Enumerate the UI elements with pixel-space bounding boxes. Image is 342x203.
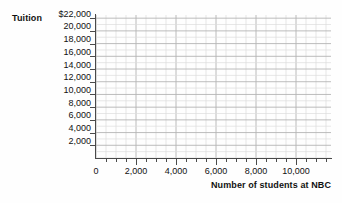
- x-axis-tick-label: 4,000: [165, 166, 188, 176]
- x-axis-minor-tick: [106, 159, 107, 162]
- plot-area: [96, 15, 331, 158]
- x-axis-tick-label: 8,000: [245, 166, 268, 176]
- y-axis-title: Tuition: [12, 13, 42, 23]
- y-axis-tick-label: 20,000: [63, 22, 91, 31]
- x-axis-minor-tick: [316, 159, 317, 162]
- x-axis-major-tick: [216, 159, 217, 165]
- y-axis-line: [95, 14, 96, 159]
- x-axis-minor-tick: [266, 159, 267, 162]
- y-axis-tick-label: 14,000: [63, 61, 91, 70]
- x-axis-tick-label: 6,000: [205, 166, 228, 176]
- y-axis-tick-label: 8,000: [68, 99, 91, 108]
- x-axis-minor-tick: [166, 159, 167, 162]
- x-axis-minor-tick: [246, 159, 247, 162]
- x-axis-minor-tick: [206, 159, 207, 162]
- x-axis-major-tick: [136, 159, 137, 165]
- grid-lines: [96, 15, 331, 158]
- y-axis-tick-label: 10,000: [63, 86, 91, 95]
- y-axis-tick-label: 6,000: [68, 111, 91, 120]
- x-axis-minor-tick: [146, 159, 147, 162]
- x-axis-major-tick: [296, 159, 297, 165]
- y-axis-tick-label: 18,000: [63, 35, 91, 44]
- x-axis-minor-tick: [126, 159, 127, 162]
- x-axis-minor-tick: [236, 159, 237, 162]
- x-axis-tick-label: 10,000: [282, 166, 310, 176]
- x-axis-major-tick: [176, 159, 177, 165]
- x-axis-minor-tick: [326, 159, 327, 162]
- chart-figure: Tuition $22,00020,00018,00016,00014,0001…: [0, 0, 342, 203]
- y-axis-tick-label: 16,000: [63, 48, 91, 57]
- y-axis-tick-label: 12,000: [63, 73, 91, 82]
- x-axis-minor-tick: [196, 159, 197, 162]
- y-axis-tick-label: $22,000: [58, 10, 91, 19]
- x-axis-tick-label: 0: [93, 166, 98, 176]
- y-axis-tick-label: 2,000: [68, 137, 91, 146]
- x-axis-minor-tick: [156, 159, 157, 162]
- x-axis-minor-tick: [186, 159, 187, 162]
- x-axis-minor-tick: [116, 159, 117, 162]
- x-axis-title: Number of students at NBC: [211, 180, 331, 190]
- x-axis-minor-tick: [286, 159, 287, 162]
- y-axis-tick-label: 4,000: [68, 124, 91, 133]
- x-axis-major-tick: [256, 159, 257, 165]
- x-axis-minor-tick: [276, 159, 277, 162]
- x-axis-minor-tick: [306, 159, 307, 162]
- x-axis-minor-tick: [226, 159, 227, 162]
- x-axis-tick-label: 2,000: [125, 166, 148, 176]
